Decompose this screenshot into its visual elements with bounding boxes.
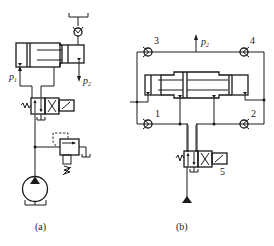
p2-label: p2	[82, 75, 91, 87]
check-valve-2-label: 2	[251, 108, 256, 119]
check-valve-icon	[73, 27, 83, 45]
check-valve-1-label: 1	[155, 108, 160, 119]
p1-label: p1	[8, 71, 17, 83]
hydraulic-diagram: p1 p2	[0, 0, 274, 246]
p2-outlet	[77, 61, 81, 82]
solenoid-valve-icon	[21, 98, 74, 120]
caption-b: (b)	[176, 221, 188, 233]
p1-line	[18, 66, 32, 98]
valve-5-label: 5	[220, 166, 225, 177]
junction-dot	[263, 99, 266, 102]
p2-label-b: p2	[200, 36, 209, 48]
diagram-a: p1 p2	[8, 13, 91, 233]
p2-outlet-b	[194, 34, 198, 52]
pressure-source-icon	[182, 196, 192, 203]
tank-top-icon	[69, 13, 88, 26]
check-valve-4-label: 4	[250, 35, 255, 46]
junction-dot	[213, 123, 216, 126]
double-booster-cylinder-icon	[145, 72, 248, 98]
left-port-line	[137, 95, 148, 102]
pump-icon	[23, 177, 48, 206]
relief-valve-icon	[53, 133, 90, 175]
check-valve-3-label: 3	[154, 35, 159, 46]
junction-dot	[179, 123, 182, 126]
caption-a: (a)	[35, 221, 46, 233]
right-port-line	[245, 95, 264, 100]
diagram-b: 3 4 p2	[130, 34, 266, 233]
booster-cylinder-icon	[16, 43, 84, 67]
